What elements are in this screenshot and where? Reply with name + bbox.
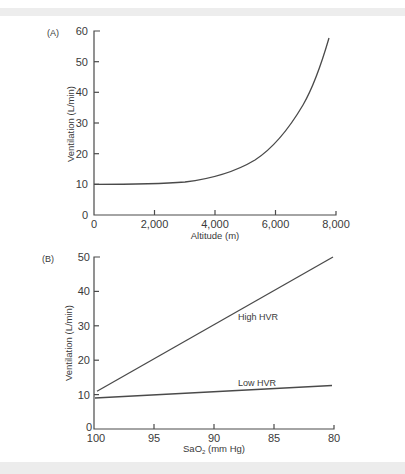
svg-text:6,000: 6,000 (262, 218, 290, 230)
panel-b-label: (B) (42, 254, 54, 264)
svg-text:30: 30 (78, 320, 90, 332)
panel-b-y-tick-labels: 50 40 30 20 10 0 (78, 251, 92, 433)
panel-b-x-axis-label: SaO2 (mm Hg) (183, 443, 245, 455)
svg-text:10: 10 (76, 178, 88, 190)
panel-a-x-ticks (155, 210, 276, 215)
panel-a-x-tick-labels: 0 2,000 4,000 6,000 8,000 (91, 218, 350, 230)
high-hvr-label: High HVR (238, 312, 279, 322)
panel-a: (A) 60 50 40 30 20 10 0 0 (47, 25, 350, 241)
figure: (A) 60 50 40 30 20 10 0 0 (0, 0, 405, 474)
panel-a-y-axis-label: Ventilation (L/min) (65, 86, 76, 162)
svg-text:40: 40 (76, 86, 88, 98)
svg-text:50: 50 (78, 251, 90, 263)
svg-text:20: 20 (76, 148, 88, 160)
svg-text:10: 10 (78, 389, 90, 401)
high-hvr-line (97, 257, 333, 391)
svg-text:8,000: 8,000 (322, 218, 350, 230)
svg-text:40: 40 (78, 285, 90, 297)
panel-a-ventilation-curve (94, 38, 329, 184)
panel-a-x-axis-label: Altitude (m) (191, 230, 240, 241)
panel-a-label: (A) (47, 28, 59, 38)
low-hvr-label: Low HVR (238, 378, 277, 388)
svg-text:50: 50 (76, 56, 88, 68)
panel-b-x-ticks (154, 424, 274, 429)
panel-a-axes (94, 31, 336, 215)
svg-text:80: 80 (328, 432, 340, 444)
svg-text:4,000: 4,000 (201, 218, 229, 230)
svg-text:20: 20 (78, 354, 90, 366)
panel-b-axes (94, 257, 334, 429)
panel-b: (B) 50 40 30 20 10 0 100 95 90 85 80 (42, 251, 340, 455)
svg-text:0: 0 (91, 218, 97, 230)
svg-text:100: 100 (87, 432, 105, 444)
panel-a-y-ticks (94, 62, 99, 185)
panel-b-y-axis-label: Ventilation (L/min) (63, 305, 74, 381)
svg-text:2,000: 2,000 (141, 218, 169, 230)
svg-text:95: 95 (148, 432, 160, 444)
svg-text:60: 60 (76, 25, 88, 37)
panel-a-y-tick-labels: 60 50 40 30 20 10 0 (76, 25, 88, 221)
svg-text:85: 85 (268, 432, 280, 444)
svg-text:0: 0 (82, 209, 88, 221)
svg-text:30: 30 (76, 117, 88, 129)
panel-b-y-ticks (94, 291, 99, 394)
low-hvr-line (95, 386, 332, 399)
